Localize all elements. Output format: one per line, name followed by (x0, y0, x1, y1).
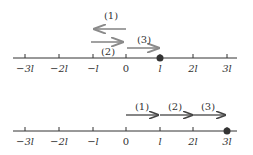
top-number-line: −3l −2l −l 0 l 2l 3l (13, 54, 237, 74)
tick-label: −l (87, 63, 99, 74)
particle-dot (157, 55, 164, 62)
tick-label: 0 (123, 63, 129, 74)
tick-label: −3l (16, 136, 34, 147)
arrow-3-label: (3) (137, 34, 151, 45)
tick-label: 2l (187, 63, 198, 74)
tick-label: −l (87, 136, 99, 147)
tick-label: l (158, 63, 161, 74)
tick-label: 2l (187, 136, 198, 147)
arrow-2-label: (2) (168, 101, 182, 112)
bottom-arrows: (1) (2) (3) (126, 101, 225, 115)
arrow-3-label: (3) (201, 101, 215, 112)
tick-label: 3l (222, 63, 232, 74)
bottom-number-line: −3l −2l −l 0 l 2l 3l (13, 127, 237, 147)
particle-dot (224, 128, 231, 135)
arrow-1-label: (1) (104, 10, 118, 21)
arrow-1-label: (1) (135, 101, 149, 112)
tick-label: 0 (123, 136, 129, 147)
tick-label: −2l (50, 136, 68, 147)
arrow-2-label: (2) (101, 46, 115, 57)
tick-label: 3l (222, 136, 232, 147)
tick-label: l (158, 136, 161, 147)
tick-label: −2l (50, 63, 68, 74)
tick-label: −3l (16, 63, 34, 74)
displacement-diagram: −3l −2l −l 0 l 2l 3l (1) (2) (3) −3l −2l… (0, 0, 253, 155)
top-arrows: (1) (2) (3) (91, 10, 158, 57)
